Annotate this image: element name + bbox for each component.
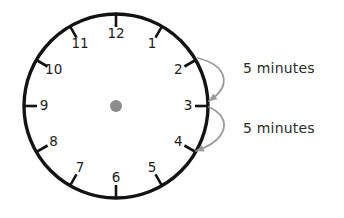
hour-numeral-4: 4 xyxy=(174,133,183,149)
hour-numeral-10: 10 xyxy=(45,61,62,77)
hour-numeral-7: 7 xyxy=(76,159,85,175)
annotation-label-five-minutes-lower: 5 minutes xyxy=(243,120,315,136)
hour-numeral-1: 1 xyxy=(148,35,157,51)
hour-numeral-2: 2 xyxy=(174,61,183,77)
clock-diagram: 121234567891011 5 minutes 5 minutes xyxy=(0,0,344,218)
hour-numeral-11: 11 xyxy=(71,35,88,51)
annotation-label-five-minutes-upper: 5 minutes xyxy=(243,60,315,76)
hour-numeral-3: 3 xyxy=(184,97,193,113)
hour-numeral-12: 12 xyxy=(107,25,124,41)
hour-numeral-6: 6 xyxy=(112,169,121,185)
clock-diagram-canvas: 121234567891011 5 minutes 5 minutes xyxy=(0,0,344,218)
center-hub xyxy=(110,100,122,112)
hour-numeral-5: 5 xyxy=(148,159,157,175)
hour-numeral-9: 9 xyxy=(40,97,49,113)
hour-numeral-8: 8 xyxy=(49,133,58,149)
